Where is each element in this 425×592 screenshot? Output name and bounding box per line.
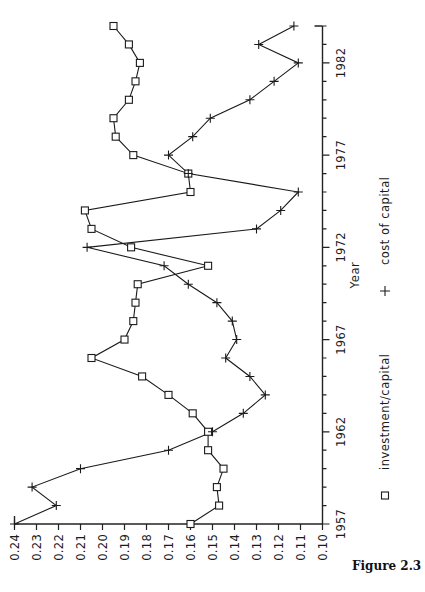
- value-tick-label: 0.12: [271, 534, 285, 561]
- data-point-square: [125, 41, 132, 48]
- cost-of-capital-line: [14, 26, 298, 524]
- value-tick-label: 0.24: [7, 534, 21, 561]
- legend-label-cost-of-capital: cost of capital: [377, 177, 391, 265]
- year-tick-label: 1977: [333, 140, 347, 170]
- investment-capital-markers: [81, 23, 227, 528]
- data-point-square: [127, 244, 134, 251]
- data-point-plus: [227, 317, 236, 326]
- data-point-square: [165, 391, 172, 398]
- value-tick-label: 0.23: [29, 534, 43, 561]
- value-tick-label: 0.14: [227, 534, 241, 561]
- value-tick-label: 0.13: [249, 534, 263, 561]
- value-tick-label: 0.11: [293, 534, 307, 561]
- data-point-square: [138, 373, 145, 380]
- data-point-plus: [252, 224, 261, 233]
- data-point-plus: [238, 409, 247, 418]
- legend-label-investment-capital: investment/capital: [377, 354, 391, 470]
- data-point-plus: [254, 40, 263, 49]
- year-tick-label: 1962: [333, 417, 347, 447]
- value-axis-ticks: [14, 524, 322, 530]
- value-tick-label: 0.20: [95, 534, 109, 561]
- data-point-square: [110, 115, 117, 122]
- data-point-square: [129, 152, 136, 159]
- data-point-square: [220, 465, 227, 472]
- data-point-square: [187, 521, 194, 528]
- value-tick-label: 0.22: [51, 534, 65, 561]
- plus-marker-icon: [380, 286, 390, 296]
- data-point-square: [187, 189, 194, 196]
- data-point-square: [189, 410, 196, 417]
- square-marker-icon: [381, 492, 388, 499]
- data-point-plus: [82, 243, 91, 252]
- data-point-plus: [27, 483, 36, 492]
- data-point-plus: [221, 354, 230, 363]
- data-point-square: [112, 133, 119, 140]
- data-point-plus: [159, 261, 168, 270]
- data-point-plus: [164, 446, 173, 455]
- data-point-plus: [232, 335, 241, 344]
- data-point-square: [136, 59, 143, 66]
- figure-caption-wrap: Figure 2.3: [352, 556, 425, 578]
- year-tick-label: 1957: [333, 509, 347, 539]
- data-point-plus: [76, 464, 85, 473]
- year-axis-tick-labels: 195719621967197219771982: [333, 48, 347, 540]
- data-point-square: [110, 23, 117, 30]
- data-point-square: [132, 78, 139, 85]
- chart-legend: investment/capital cost of capital: [377, 177, 391, 499]
- data-point-square: [88, 355, 95, 362]
- data-point-plus: [10, 520, 19, 529]
- value-tick-label: 0.10: [315, 534, 329, 561]
- figure-caption: Figure 2.3: [352, 559, 421, 573]
- value-tick-label: 0.16: [183, 534, 197, 561]
- data-point-square: [81, 207, 88, 214]
- data-point-square: [215, 502, 222, 509]
- data-point-square: [125, 96, 132, 103]
- data-point-square: [132, 299, 139, 306]
- data-point-square: [88, 225, 95, 232]
- value-axis-tick-labels: 0.240.230.220.210.200.190.180.170.160.15…: [7, 534, 329, 561]
- value-tick-label: 0.17: [161, 534, 175, 561]
- data-point-square: [129, 318, 136, 325]
- data-point-square: [121, 336, 128, 343]
- value-tick-label: 0.19: [117, 534, 131, 561]
- data-point-square: [204, 447, 211, 454]
- year-tick-label: 1967: [333, 324, 347, 354]
- value-tick-label: 0.15: [205, 534, 219, 561]
- value-tick-label: 0.21: [73, 534, 87, 561]
- data-point-square: [134, 281, 141, 288]
- value-tick-label: 0.18: [139, 534, 153, 561]
- year-tick-label: 1982: [333, 48, 347, 78]
- data-point-square: [204, 262, 211, 269]
- investment-capital-line: [84, 26, 223, 524]
- year-tick-label: 1972: [333, 232, 347, 262]
- data-point-plus: [289, 22, 298, 31]
- x-axis-title: Year: [347, 262, 361, 290]
- data-point-plus: [245, 95, 254, 104]
- data-point-square: [213, 484, 220, 491]
